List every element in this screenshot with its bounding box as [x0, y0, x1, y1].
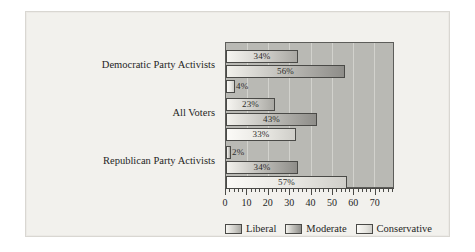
- bar-row: 56%: [226, 65, 393, 78]
- axis-tick-minor: [392, 189, 393, 192]
- axis-tick-minor: [302, 189, 303, 192]
- legend-swatch-icon: [285, 224, 302, 234]
- bar-liberal[interactable]: 34%: [226, 50, 298, 63]
- bar-value-label: 43%: [263, 115, 280, 124]
- axis-tick-major: [353, 189, 354, 195]
- axis-tick-label: 10: [241, 198, 251, 208]
- axis-tick-minor: [264, 189, 265, 192]
- axis-tick-minor: [319, 189, 320, 192]
- bar-value-label: 34%: [253, 52, 270, 61]
- bar-moderate[interactable]: 43%: [226, 113, 317, 126]
- axis-tick-minor: [366, 189, 367, 192]
- axis-tick-minor: [383, 189, 384, 192]
- bar-row: 23%: [226, 98, 393, 111]
- bar-value-label: 57%: [278, 178, 295, 187]
- bar-moderate[interactable]: 56%: [226, 65, 345, 78]
- bar-liberal[interactable]: 2%: [226, 146, 231, 159]
- axis-tick-minor: [345, 189, 346, 192]
- x-axis: [225, 188, 394, 197]
- axis-tick-minor: [323, 189, 324, 192]
- bar-row: 4%: [226, 80, 393, 93]
- bar-value-label: 4%: [236, 82, 248, 91]
- axis-tick-minor: [379, 189, 380, 192]
- bar-liberal[interactable]: 23%: [226, 98, 275, 111]
- bar-conservative[interactable]: 4%: [226, 80, 235, 93]
- bar-moderate[interactable]: 34%: [226, 161, 298, 174]
- bar-row: 33%: [226, 128, 393, 141]
- axis-tick-minor: [362, 189, 363, 192]
- legend-label: Moderate: [306, 224, 346, 235]
- axis-tick-minor: [306, 189, 307, 192]
- bar-value-label: 56%: [277, 67, 294, 76]
- axis-tick-minor: [315, 189, 316, 192]
- axis-tick-major: [332, 189, 333, 195]
- axis-tick-label: 40: [306, 198, 316, 208]
- bar-row: 2%: [226, 146, 393, 159]
- axis-tick-major: [375, 189, 376, 195]
- axis-tick-label: 0: [223, 198, 228, 208]
- axis-tick-minor: [370, 189, 371, 192]
- legend-item-liberal[interactable]: Liberal: [225, 224, 276, 235]
- axis-tick-minor: [242, 189, 243, 192]
- legend-swatch-icon: [356, 224, 373, 234]
- category-label: All Voters: [45, 108, 215, 119]
- axis-tick-minor: [238, 189, 239, 192]
- axis-tick-minor: [276, 189, 277, 192]
- chart-legend: Liberal Moderate Conservative: [225, 221, 435, 237]
- axis-tick-minor: [255, 189, 256, 192]
- bar-conservative[interactable]: 33%: [226, 128, 296, 141]
- axis-tick-minor: [251, 189, 252, 192]
- axis-tick-minor: [336, 189, 337, 192]
- plot-area: 34% 56% 4%: [225, 42, 394, 188]
- legend-item-conservative[interactable]: Conservative: [356, 224, 432, 235]
- axis-tick-minor: [281, 189, 282, 192]
- bar-value-label: 34%: [253, 163, 270, 172]
- axis-tick-minor: [259, 189, 260, 192]
- chart-frame: Democratic Party Activists All Voters Re…: [25, 11, 450, 237]
- axis-tick-major: [246, 189, 247, 195]
- legend-label: Conservative: [377, 224, 432, 235]
- axis-tick-minor: [341, 189, 342, 192]
- bar-row: 34%: [226, 161, 393, 174]
- bar-row: 43%: [226, 113, 393, 126]
- axis-tick-minor: [293, 189, 294, 192]
- legend-item-moderate[interactable]: Moderate: [285, 224, 346, 235]
- bar-groups: 34% 56% 4%: [226, 43, 393, 187]
- axis-tick-label: 60: [348, 198, 358, 208]
- chart-page: Democratic Party Activists All Voters Re…: [0, 0, 475, 252]
- axis-tick-minor: [272, 189, 273, 192]
- axis-tick-label: 70: [370, 198, 380, 208]
- axis-tick-minor: [328, 189, 329, 192]
- bar-value-label: 33%: [252, 130, 269, 139]
- axis-tick-minor: [349, 189, 350, 192]
- bar-value-label: 2%: [232, 148, 244, 157]
- axis-tick-label: 30: [284, 198, 294, 208]
- axis-tick-major: [289, 189, 290, 195]
- axis-tick-minor: [285, 189, 286, 192]
- axis-tick-minor: [388, 189, 389, 192]
- category-label: Democratic Party Activists: [45, 60, 215, 71]
- legend-swatch-icon: [225, 224, 242, 234]
- bar-row: 34%: [226, 50, 393, 63]
- axis-tick-label: 50: [327, 198, 337, 208]
- axis-tick-minor: [234, 189, 235, 192]
- axis-tick-major: [268, 189, 269, 195]
- bar-value-label: 23%: [242, 100, 259, 109]
- axis-tick-minor: [298, 189, 299, 192]
- axis-tick-major: [225, 189, 226, 195]
- axis-tick-label: 20: [263, 198, 273, 208]
- axis-tick-minor: [358, 189, 359, 192]
- legend-label: Liberal: [246, 224, 276, 235]
- axis-tick-minor: [229, 189, 230, 192]
- category-axis-labels: Democratic Party Activists All Voters Re…: [51, 42, 221, 188]
- category-label: Republican Party Activists: [45, 156, 215, 167]
- x-axis-tick-labels: 010203040506070: [225, 198, 394, 212]
- axis-tick-major: [311, 189, 312, 195]
